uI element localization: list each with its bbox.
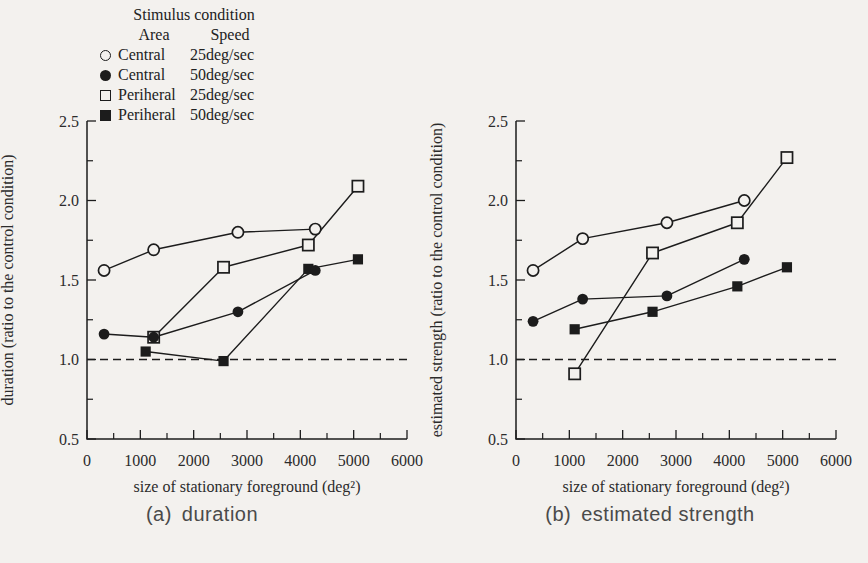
legend-table: Area Speed Central 25deg/sec Central 50d… — [92, 25, 270, 125]
svg-text:0: 0 — [512, 452, 520, 469]
legend-speed-label: 50deg/sec — [190, 65, 270, 85]
svg-text:2000: 2000 — [607, 452, 639, 469]
series-markers-central-50deg-sec — [528, 254, 750, 327]
svg-text:0: 0 — [83, 452, 91, 469]
caption-a-prefix: (a) — [146, 503, 172, 526]
figure: 01000200030004000500060000.51.01.52.02.5… — [0, 0, 868, 563]
svg-text:5000: 5000 — [767, 452, 799, 469]
filled-circle-icon — [100, 70, 111, 81]
svg-text:5000: 5000 — [338, 452, 370, 469]
svg-text:2.0: 2.0 — [59, 192, 79, 209]
svg-text:1.0: 1.0 — [488, 351, 508, 368]
chart-a: 01000200030004000500060000.51.01.52.02.5… — [0, 113, 423, 497]
svg-text:2000: 2000 — [178, 452, 210, 469]
legend-area-label: Periheral — [118, 105, 190, 125]
caption-b-prefix: (b) — [545, 503, 571, 526]
svg-text:4000: 4000 — [284, 452, 316, 469]
axes — [87, 121, 407, 439]
legend-speed-label: 50deg/sec — [190, 105, 270, 125]
svg-text:1000: 1000 — [124, 452, 156, 469]
svg-text:2.5: 2.5 — [488, 113, 508, 130]
svg-text:2.0: 2.0 — [488, 192, 508, 209]
x-axis-title: size of stationary foreground (deg²) — [134, 478, 361, 496]
legend-row — [92, 110, 118, 121]
series-markers-periheral-50deg-sec — [141, 254, 363, 366]
svg-text:1.5: 1.5 — [59, 272, 79, 289]
axes — [516, 121, 836, 439]
legend-area-label: Periheral — [118, 85, 190, 105]
series-line-periheral-50deg-sec — [146, 259, 358, 361]
svg-text:1000: 1000 — [553, 452, 585, 469]
series-line-central-25deg-sec — [104, 229, 315, 270]
svg-text:1.0: 1.0 — [59, 351, 79, 368]
legend-row — [92, 70, 118, 81]
series-markers-periheral-25deg-sec — [148, 181, 363, 343]
legend-speed-label: 25deg/sec — [190, 85, 270, 105]
legend: Stimulus condition Area Speed Central 25… — [92, 5, 270, 125]
svg-text:2.5: 2.5 — [59, 113, 79, 130]
caption-b-label: estimated strength — [581, 503, 755, 526]
legend-row — [92, 90, 118, 101]
y-axis-title: duration (ratio to the control condition… — [0, 154, 17, 405]
caption-a: (a) duration — [146, 503, 258, 526]
legend-title: Stimulus condition — [118, 5, 270, 25]
svg-text:6000: 6000 — [820, 452, 852, 469]
series-line-central-25deg-sec — [533, 201, 744, 271]
chart-b: 01000200030004000500060000.51.01.52.02.5… — [428, 113, 852, 497]
legend-row — [92, 50, 118, 61]
open-circle-icon — [100, 50, 111, 61]
legend-speed-label: 25deg/sec — [190, 45, 270, 65]
svg-text:3000: 3000 — [660, 452, 692, 469]
filled-square-icon — [100, 110, 111, 121]
svg-text:0.5: 0.5 — [59, 431, 79, 448]
caption-a-label: duration — [182, 503, 258, 526]
series-markers-central-25deg-sec — [527, 195, 749, 276]
svg-text:4000: 4000 — [713, 452, 745, 469]
legend-area-header: Area — [118, 25, 190, 45]
open-square-icon — [100, 90, 111, 101]
svg-text:0.5: 0.5 — [488, 431, 508, 448]
x-axis-title: size of stationary foreground (deg²) — [563, 478, 790, 496]
svg-text:1.5: 1.5 — [488, 272, 508, 289]
y-axis-title: estimated strength (ratio to the control… — [428, 123, 446, 438]
series-line-periheral-25deg-sec — [575, 158, 787, 374]
svg-text:6000: 6000 — [391, 452, 423, 469]
legend-speed-header: Speed — [190, 25, 270, 45]
legend-area-label: Central — [118, 45, 190, 65]
series-line-periheral-25deg-sec — [154, 186, 358, 337]
series-markers-central-50deg-sec — [99, 265, 321, 343]
caption-b: (b) estimated strength — [545, 503, 754, 526]
legend-area-label: Central — [118, 65, 190, 85]
svg-text:3000: 3000 — [231, 452, 263, 469]
series-line-central-50deg-sec — [533, 259, 744, 321]
series-markers-periheral-25deg-sec — [569, 152, 792, 379]
